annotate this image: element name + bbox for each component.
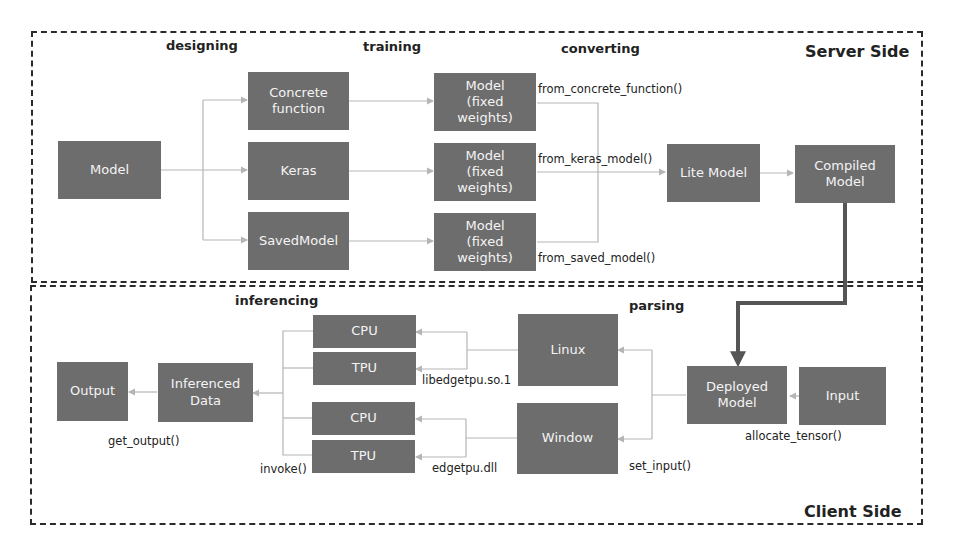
linux-box: Linux [518, 314, 618, 386]
allocate-tensor-label: allocate_tensor() [745, 429, 842, 443]
from-concrete-function-label: from_concrete_function() [538, 82, 682, 96]
window-box: Window [517, 403, 618, 474]
stage-designing: designing [166, 38, 238, 53]
stage-inferencing: inferencing [235, 293, 318, 308]
client-side-title: Client Side [804, 502, 901, 521]
from-saved-model-label: from_saved_model() [538, 251, 655, 265]
set-input-label: set_input() [629, 459, 691, 473]
savedmodel-box: SavedModel [248, 212, 349, 270]
edgetpu-dll-label: edgetpu.dll [432, 461, 497, 475]
server-side-title: Server Side [805, 42, 909, 61]
cpu-box-linux: CPU [313, 315, 416, 348]
tpu-box-linux: TPU [313, 352, 416, 385]
compiled-model-box: Compiled Model [795, 145, 895, 203]
output-box: Output [57, 362, 128, 421]
lite-model-box: Lite Model [667, 144, 760, 202]
diagram-canvas: Server Side Client Side designing traini… [0, 0, 954, 555]
input-box: Input [799, 367, 886, 425]
stage-training: training [363, 39, 421, 54]
from-keras-model-label: from_keras_model() [538, 152, 652, 166]
cpu-box-windows: CPU [312, 402, 415, 435]
inferenced-data-box: Inferenced Data [158, 363, 253, 422]
deployed-model-box: Deployed Model [687, 366, 787, 424]
concrete-function-box: Concrete function [248, 72, 349, 130]
model-box: Model [58, 141, 161, 199]
tpu-box-windows: TPU [312, 440, 415, 473]
fixed-weights-model-box-2: Model (fixed weights) [434, 143, 536, 201]
get-output-label: get_output() [108, 434, 180, 448]
invoke-label: invoke() [260, 462, 307, 476]
stage-parsing: parsing [629, 298, 684, 313]
fixed-weights-model-box-3: Model (fixed weights) [434, 213, 536, 271]
libedgetpu-label: libedgetpu.so.1 [422, 373, 511, 387]
fixed-weights-model-box-1: Model (fixed weights) [434, 73, 536, 131]
keras-box: Keras [248, 142, 349, 200]
stage-converting: converting [561, 41, 640, 56]
